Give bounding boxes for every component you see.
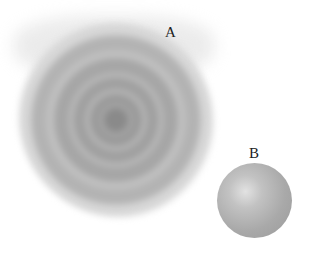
blob-a bbox=[18, 22, 214, 218]
label-a: A bbox=[165, 24, 176, 41]
sphere-b bbox=[217, 163, 292, 238]
label-b: B bbox=[249, 145, 259, 162]
